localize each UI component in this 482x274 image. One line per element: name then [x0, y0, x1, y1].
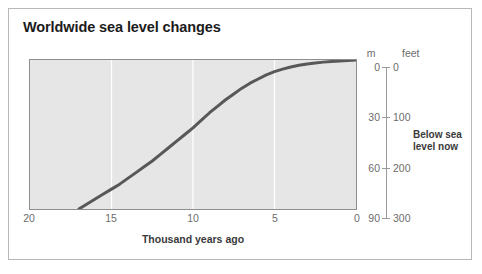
- y-axis-tick-row: 90300: [361, 212, 431, 224]
- chart-title: Worldwide sea level changes: [23, 19, 221, 35]
- y-axis-tick-mark: [382, 168, 390, 169]
- x-axis-tick-label: 0: [354, 212, 360, 224]
- y-axis-tick-row: 30100: [361, 111, 431, 123]
- y-axis-tick-label-feet: 300: [393, 212, 411, 224]
- annotation-line-2: level now: [413, 141, 475, 153]
- y-axis-tick-mark: [382, 67, 390, 68]
- y-axis-tick-label-meters: 30: [368, 111, 380, 123]
- y-axis-tick-label-feet: 200: [393, 162, 411, 174]
- x-axis-tick-label: 5: [272, 212, 278, 224]
- y-axis-tick-label-meters: 90: [368, 212, 380, 224]
- x-axis-title: Thousand years ago: [29, 233, 357, 245]
- plot-svg: [30, 60, 356, 209]
- y-axis-tick-mark: [382, 117, 390, 118]
- annotation-line-1: Below sea: [413, 129, 475, 141]
- x-axis-tick-label: 20: [23, 212, 35, 224]
- right-axis-spine: [386, 67, 387, 218]
- x-axis-tick-labels: 20151050: [29, 212, 357, 226]
- series-group: [79, 60, 356, 209]
- y-axis-tick-mark: [382, 218, 390, 219]
- y-axis-tick-label-meters: 60: [368, 162, 380, 174]
- y-axis-tick-label-meters: 0: [374, 61, 380, 73]
- x-axis-tick-label: 10: [187, 212, 199, 224]
- below-sea-level-annotation: Below sea level now: [413, 129, 475, 153]
- y-axis-unit-meters: m: [367, 47, 376, 59]
- plot-area: [29, 59, 357, 210]
- chart-figure: Worldwide sea level changes 20151050 Tho…: [8, 8, 472, 260]
- y-axis-tick-label-feet: 100: [393, 111, 411, 123]
- y-axis-tick-row: 00: [361, 61, 431, 73]
- series-line: [79, 60, 356, 209]
- x-axis-tick-label: 15: [105, 212, 117, 224]
- y-axis-unit-feet: feet: [402, 47, 420, 59]
- y-axis-tick-row: 60200: [361, 162, 431, 174]
- y-axis-tick-label-feet: 0: [393, 61, 399, 73]
